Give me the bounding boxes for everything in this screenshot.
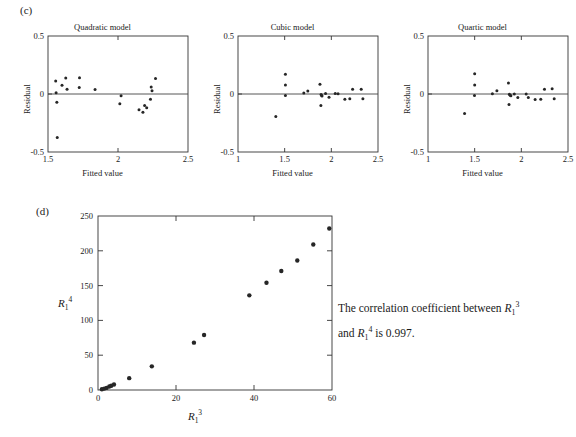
data-point (154, 77, 157, 80)
y-axis-title: Residual (212, 84, 222, 114)
data-point (284, 73, 287, 76)
data-point (351, 88, 354, 91)
x-axis-title: Fitted value (200, 168, 385, 178)
y-tick-label: 0 (40, 89, 44, 99)
x-tick-label: 1 (236, 154, 240, 164)
data-point (151, 89, 154, 92)
data-point (284, 83, 287, 86)
data-point (295, 258, 299, 262)
y-axis-title: Residual (402, 84, 412, 114)
data-point (302, 92, 305, 95)
data-point (360, 88, 363, 91)
data-point (473, 72, 476, 75)
axis-symbol-base: R (58, 297, 65, 309)
x-tick-label: 2.5 (563, 154, 574, 164)
chart-r1-scatter: 0204060050100150200250R13R14 (50, 208, 340, 433)
y-tick-label: -0.5 (221, 147, 234, 157)
data-point (508, 103, 511, 106)
x-tick-label: 1.5 (469, 154, 480, 164)
data-point (274, 115, 277, 118)
data-point (343, 98, 346, 101)
x-tick-label: 1.5 (43, 154, 54, 164)
y-tick-label: 200 (80, 246, 93, 256)
y-tick-label: -0.5 (411, 147, 424, 157)
note-symbol-r1-fourth: R14 (357, 327, 372, 339)
data-point (138, 108, 141, 111)
plot-frame (98, 216, 332, 390)
axis-symbol-sup: 3 (198, 408, 202, 417)
axis-symbol-base: R (188, 410, 195, 422)
y-tick-label: 100 (80, 315, 93, 325)
x-tick-label: 2.5 (373, 154, 384, 164)
x-tick-label: 2 (519, 154, 523, 164)
data-point (495, 89, 498, 92)
x-tick-label: 1.5 (279, 154, 290, 164)
x-tick-label: 0 (96, 393, 100, 403)
data-point (141, 111, 144, 114)
data-point (318, 83, 321, 86)
data-point (507, 81, 510, 84)
data-point (553, 97, 556, 100)
x-axis-title: Fitted value (10, 168, 195, 178)
data-point (306, 90, 309, 93)
y-tick-label: 0 (89, 385, 93, 395)
data-point (491, 92, 494, 95)
data-point (473, 94, 476, 97)
y-axis-title: R14 (58, 295, 72, 312)
x-axis-title: Fitted value (390, 168, 575, 178)
y-tick-label: 0.5 (33, 31, 44, 41)
data-point (55, 101, 58, 104)
data-point (61, 84, 64, 87)
y-tick-label: 50 (85, 350, 94, 360)
x-tick-label: 2.5 (183, 154, 194, 164)
data-point (56, 136, 59, 139)
data-point (145, 106, 148, 109)
data-point (112, 382, 116, 386)
note-symbol-r1-cubed-sup: 3 (515, 300, 519, 309)
note-symbol-r1-fourth-base: R (357, 327, 364, 339)
data-point (127, 376, 131, 380)
axis-symbol-sup: 4 (68, 295, 72, 304)
data-point (534, 98, 537, 101)
axis-symbol-sub: 1 (65, 303, 69, 312)
data-point (334, 92, 337, 95)
data-point (543, 88, 546, 91)
y-tick-label: 0 (230, 89, 234, 99)
x-tick-label: 2 (329, 154, 333, 164)
data-point (150, 364, 154, 368)
data-point (279, 269, 283, 273)
y-axis-title: Residual (22, 84, 32, 114)
data-point (94, 88, 97, 91)
data-point (337, 92, 340, 95)
y-tick-label: 150 (80, 281, 93, 291)
x-tick-label: 20 (172, 393, 181, 403)
data-point (284, 94, 287, 97)
data-point (78, 76, 81, 79)
data-point (66, 88, 69, 91)
note-text-part-2: and (338, 327, 357, 339)
correlation-note: The correlation coefficient between R13 … (338, 296, 538, 346)
data-point (525, 93, 528, 96)
data-point (319, 104, 322, 107)
data-point (192, 340, 196, 344)
data-point (64, 76, 67, 79)
data-point (328, 96, 331, 99)
chart-quartic: Quartic model 11.522.5-0.500.5Fitted val… (390, 22, 575, 197)
data-point (527, 96, 530, 99)
y-tick-label: 0.5 (223, 31, 234, 41)
note-symbol-r1-cubed: R13 (504, 302, 519, 314)
chart-cubic: Cubic model 11.522.5-0.500.5Fitted value… (200, 22, 385, 197)
y-tick-label: 0 (420, 89, 424, 99)
data-point (118, 102, 121, 105)
y-tick-label: 0.5 (413, 31, 424, 41)
data-point (202, 333, 206, 337)
data-point (348, 97, 351, 100)
data-point (473, 83, 476, 86)
data-point (321, 95, 324, 98)
data-point (463, 112, 466, 115)
chart-quadratic: Quadratic model 1.522.5-0.500.5Fitted va… (10, 22, 195, 197)
data-point (516, 96, 519, 99)
data-point (54, 79, 57, 82)
panel-d-label: (d) (36, 205, 49, 217)
chart-r1-canvas (50, 208, 340, 433)
